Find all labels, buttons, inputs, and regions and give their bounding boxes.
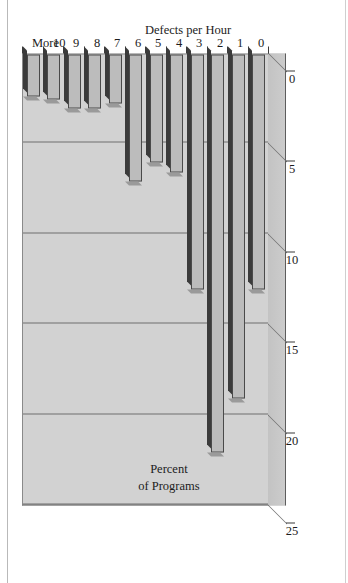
category-label-2: 2 [217, 36, 223, 51]
bar-6 [129, 54, 142, 181]
category-tick-end [22, 46, 23, 53]
bar-3 [191, 54, 204, 289]
bar-9 [68, 54, 81, 108]
category-label-7: 7 [114, 36, 120, 51]
bar-side-face [146, 162, 163, 166]
bar-face [88, 54, 101, 108]
bar-face [47, 54, 60, 99]
value-tick-leg-25 [268, 504, 287, 524]
bar-face [170, 54, 183, 172]
bar-8 [88, 54, 101, 108]
bar-2 [211, 54, 224, 452]
value-tick-label-10: 10 [286, 252, 299, 267]
bar-face [191, 54, 204, 289]
gridline-25 [23, 503, 268, 504]
value-tick-label-25: 25 [286, 523, 299, 538]
bar-top-face [187, 46, 191, 285]
bar-top-face [105, 46, 109, 99]
category-tick-5 [166, 46, 167, 53]
value-axis-title: Percentof Programs [109, 460, 229, 494]
bar-top-face [84, 46, 88, 104]
category-label-9: 9 [73, 36, 79, 51]
value-axis-title-line-2: of Programs [109, 477, 229, 494]
chart-floor [268, 53, 286, 505]
bar-7 [109, 54, 122, 103]
bar-top-face [207, 46, 211, 448]
category-tick-7 [125, 46, 126, 53]
bar-face [27, 54, 40, 96]
bar-top-face [64, 46, 68, 104]
bar-10 [47, 54, 60, 99]
bar-face [211, 54, 224, 452]
bar-side-face [166, 172, 183, 176]
bar-side-face [228, 398, 245, 402]
bar-1 [232, 54, 245, 398]
bar-side-face [23, 96, 40, 100]
category-label-5: 5 [155, 36, 161, 51]
value-tick-label-15: 15 [286, 342, 299, 357]
bar-top-face [146, 46, 150, 158]
bar-top-face [23, 46, 27, 92]
value-tick-label-5: 5 [289, 161, 295, 176]
bar-side-face [64, 108, 81, 112]
category-label-3: 3 [196, 36, 202, 51]
category-label-1: 1 [237, 36, 243, 51]
value-tick-20 [286, 432, 295, 433]
bar-side-face [207, 452, 224, 456]
bar-face [68, 54, 81, 108]
category-tick-1 [248, 46, 249, 53]
bar-top-face [248, 46, 252, 285]
bar-top-face [125, 46, 129, 177]
bar-face [252, 54, 265, 289]
category-label-More: More [32, 36, 59, 51]
bar-side-face [125, 181, 142, 185]
category-label-8: 8 [94, 36, 100, 51]
category-tick-8 [104, 46, 105, 53]
bar-face [232, 54, 245, 398]
bar-0 [252, 54, 265, 289]
bar-face [129, 54, 142, 181]
category-label-6: 6 [135, 36, 141, 51]
bar-face [150, 54, 163, 162]
value-axis-title-line-1: Percent [109, 460, 229, 477]
category-tick-0 [268, 46, 269, 53]
bar-chart: 0510152025 Percentof Programs 0123456789… [0, 0, 348, 583]
bar-side-face [187, 289, 204, 293]
category-tick-4 [186, 46, 187, 53]
figure-rotation-wrapper: 0510152025 Percentof Programs 0123456789… [0, 0, 348, 583]
category-tick-9 [84, 46, 85, 53]
category-tick-2 [227, 46, 228, 53]
category-tick-3 [207, 46, 208, 53]
bar-side-face [43, 99, 60, 103]
category-label-4: 4 [176, 36, 182, 51]
bar-side-face [84, 108, 101, 112]
gridline-20 [23, 413, 268, 414]
bar-4 [170, 54, 183, 172]
plot-area [22, 53, 268, 505]
bar-side-face [105, 103, 122, 107]
category-label-0: 0 [258, 36, 264, 51]
bar-face [109, 54, 122, 103]
value-tick-label-0: 0 [289, 71, 295, 86]
value-tick-label-20: 20 [286, 433, 299, 448]
bar-side-face [248, 289, 265, 293]
bar-top-face [228, 46, 232, 394]
bar-5 [150, 54, 163, 162]
bar-More [27, 54, 40, 96]
bar-top-face [166, 46, 170, 168]
category-tick-6 [145, 46, 146, 53]
bar-top-face [43, 46, 47, 95]
category-axis-title: Defects per Hour [145, 22, 231, 37]
